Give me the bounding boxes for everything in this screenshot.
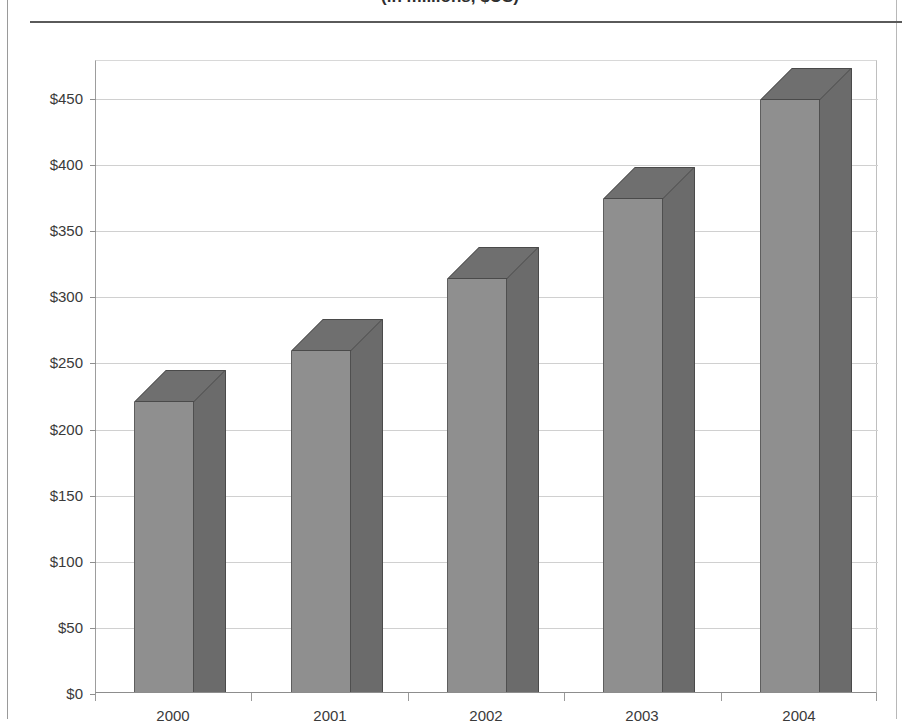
bar-side-face bbox=[194, 370, 226, 692]
x-axis-tick bbox=[564, 693, 565, 701]
y-axis-tick bbox=[90, 231, 96, 232]
y-axis-tick bbox=[90, 496, 96, 497]
x-axis-tick bbox=[721, 693, 722, 701]
y-axis-label: $50 bbox=[58, 619, 83, 634]
bar-front-face bbox=[603, 199, 663, 692]
y-axis-label: $450 bbox=[50, 91, 83, 106]
y-axis-tick bbox=[90, 430, 96, 431]
bar-front-face bbox=[447, 279, 507, 692]
y-axis-label: $150 bbox=[50, 487, 83, 502]
y-axis-label: $300 bbox=[50, 289, 83, 304]
y-axis-label: $200 bbox=[50, 421, 83, 436]
x-axis-tick bbox=[251, 693, 252, 701]
bar-side-face bbox=[663, 167, 695, 692]
plot-area bbox=[95, 60, 877, 693]
bar-2003 bbox=[603, 167, 695, 692]
y-axis-tick bbox=[90, 165, 96, 166]
x-axis-label-2000: 2000 bbox=[156, 707, 189, 724]
y-axis-label: $350 bbox=[50, 223, 83, 238]
bar-side-face bbox=[820, 68, 852, 692]
y-axis-tick bbox=[90, 297, 96, 298]
y-axis-tick bbox=[90, 99, 96, 100]
x-axis-tick bbox=[876, 693, 877, 701]
x-axis-label-2001: 2001 bbox=[313, 707, 346, 724]
bar-2000 bbox=[134, 370, 226, 692]
bar-2002 bbox=[447, 247, 539, 692]
bar-front-face bbox=[760, 100, 820, 692]
bar-2001 bbox=[291, 319, 383, 692]
x-axis: 20002001200220032004 bbox=[95, 693, 877, 725]
x-axis-label-2002: 2002 bbox=[469, 707, 502, 724]
y-axis-tick bbox=[90, 363, 96, 364]
y-axis-label: $100 bbox=[50, 553, 83, 568]
x-axis-tick bbox=[95, 693, 96, 701]
bar-front-face bbox=[134, 402, 194, 692]
x-axis-tick bbox=[408, 693, 409, 701]
chart-title-text: (in millions, $US) bbox=[20, 0, 880, 8]
bar-2004 bbox=[760, 68, 852, 692]
title-divider-rule bbox=[30, 21, 902, 23]
y-axis-tick bbox=[90, 562, 96, 563]
y-axis-tick bbox=[90, 628, 96, 629]
y-axis-label: $400 bbox=[50, 157, 83, 172]
x-axis-label-2004: 2004 bbox=[782, 707, 815, 724]
x-axis-label-2003: 2003 bbox=[625, 707, 658, 724]
bar-front-face bbox=[291, 351, 351, 692]
y-axis-label: $0 bbox=[66, 686, 83, 701]
chart-title-clipped: (in millions, $US) bbox=[20, 0, 880, 8]
bar-side-face bbox=[507, 247, 539, 692]
bar-chart: $0$50$100$150$200$250$300$350$400$450 20… bbox=[0, 30, 902, 719]
bar-side-face bbox=[351, 319, 383, 692]
y-axis: $0$50$100$150$200$250$300$350$400$450 bbox=[0, 60, 95, 693]
y-axis-label: $250 bbox=[50, 355, 83, 370]
